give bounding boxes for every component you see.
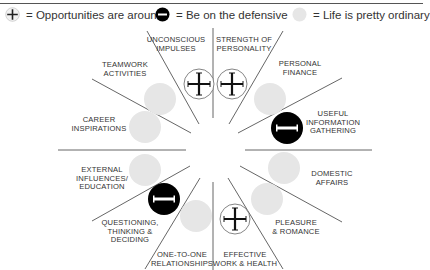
- sector-label-strength: STRENGTH OF PERSONALITY: [216, 36, 272, 53]
- label-line: INSPIRATIONS: [72, 125, 127, 134]
- label-line: WORK & HEALTH: [213, 260, 277, 269]
- label-line: RELATIONSHIPS: [151, 260, 213, 269]
- sector-label-information: USEFUL INFORMATION GATHERING: [306, 110, 360, 136]
- label-line: IMPULSES: [147, 45, 206, 54]
- sector-label-career: CAREER INSPIRATIONS: [72, 116, 127, 133]
- label-line: EDUCATION: [76, 183, 128, 192]
- sector-label-work: EFFECTIVE WORK & HEALTH: [213, 251, 277, 268]
- label-line: & ROMANCE: [272, 228, 319, 237]
- label-line: DECIDING: [101, 236, 158, 245]
- sector-label-external: EXTERNAL INFLUENCES/ EDUCATION: [76, 166, 128, 192]
- status-career-grey-icon: [129, 111, 161, 143]
- status-unconscious-plus-icon: [184, 69, 214, 99]
- status-pleasure-grey-icon: [251, 183, 283, 215]
- status-finance-grey-icon: [254, 83, 286, 115]
- status-external-grey-icon: [129, 154, 161, 186]
- status-work-plus-icon: [220, 204, 250, 234]
- status-teamwork-grey-icon: [144, 83, 176, 115]
- label-line: ACTIVITIES: [102, 70, 148, 79]
- status-strength-plus-icon: [217, 69, 247, 99]
- label-line: FINANCE: [279, 69, 322, 78]
- sector-label-relationships: ONE-TO-ONE RELATIONSHIPS: [151, 251, 213, 268]
- status-questioning-minus-icon: [148, 183, 180, 215]
- status-information-minus-icon: [271, 112, 303, 144]
- sector-label-questioning: QUESTIONING, THINKING & DECIDING: [101, 219, 158, 245]
- status-domestic-grey-icon: [268, 152, 300, 184]
- label-line: GATHERING: [306, 127, 360, 136]
- label-line: PERSONALITY: [216, 45, 272, 54]
- sector-label-teamwork: TEAMWORK ACTIVITIES: [102, 61, 148, 78]
- sector-label-unconscious: UNCONSCIOUS IMPULSES: [147, 36, 206, 53]
- sector-label-pleasure: PLEASURE & ROMANCE: [272, 219, 319, 236]
- status-relationships-grey-icon: [180, 200, 212, 232]
- sector-label-finance: PERSONAL FINANCE: [279, 60, 322, 77]
- sector-label-domestic: DOMESTIC AFFAIRS: [311, 170, 352, 187]
- label-line: AFFAIRS: [311, 179, 352, 188]
